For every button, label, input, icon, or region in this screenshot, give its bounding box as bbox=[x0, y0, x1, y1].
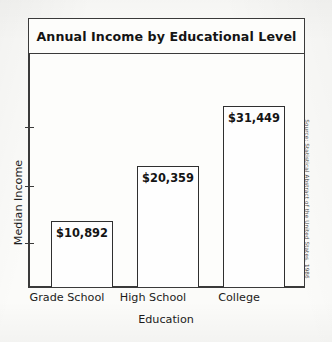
x-axis-title: Education bbox=[0, 313, 332, 326]
x-axis-category-high-school: High School bbox=[110, 291, 196, 304]
plot-area: $10,892 $20,359 $31,449 bbox=[29, 54, 304, 287]
x-axis-category-college: College bbox=[196, 291, 282, 304]
y-axis-tick-2 bbox=[25, 186, 34, 187]
y-axis-tick-3 bbox=[25, 127, 34, 128]
bar-value-label: $31,449 bbox=[224, 111, 284, 125]
bar-high-school: $20,359 bbox=[137, 166, 199, 287]
y-axis-line bbox=[29, 54, 30, 287]
y-axis-tick-1 bbox=[25, 243, 34, 244]
chart-frame: Annual Income by Educational Level $10,8… bbox=[28, 18, 305, 288]
y-axis-title: Median Income bbox=[12, 155, 25, 251]
bar-grade-school: $10,892 bbox=[51, 221, 113, 287]
chart-title: Annual Income by Educational Level bbox=[36, 29, 296, 44]
bar-value-label: $10,892 bbox=[52, 226, 112, 240]
chart-title-band: Annual Income by Educational Level bbox=[29, 19, 304, 54]
bar-value-label: $20,359 bbox=[138, 171, 198, 185]
bar-college: $31,449 bbox=[223, 106, 285, 287]
source-credit: Source: Statistical Abstract of the Unit… bbox=[304, 104, 310, 294]
x-axis-category-grade-school: Grade School bbox=[24, 291, 110, 304]
